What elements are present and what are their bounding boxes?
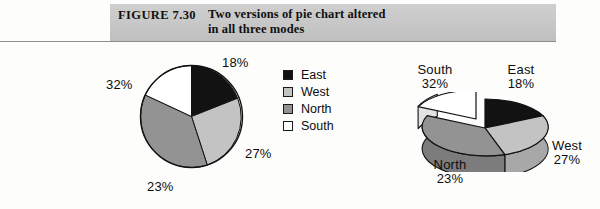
pie3d-label-east-name: East xyxy=(508,62,535,77)
figure-title: Two versions of pie chart altered in all… xyxy=(208,7,385,36)
pie3d-label-west: West 27% xyxy=(543,139,591,167)
legend: East West North South xyxy=(283,67,357,135)
pie2d-label-west: 27% xyxy=(245,146,272,161)
pie3d-label-east-pct: 18% xyxy=(508,76,535,91)
pie3d-label-west-name: West xyxy=(552,138,582,153)
pie2d-label-north: 23% xyxy=(147,179,174,194)
legend-swatch-west-icon xyxy=(283,87,293,97)
legend-label-east: East xyxy=(301,69,326,82)
legend-label-north: North xyxy=(301,103,332,116)
legend-item-east[interactable]: East xyxy=(283,67,357,83)
legend-item-north[interactable]: North xyxy=(283,101,357,117)
pie3d-label-south: South 32% xyxy=(406,63,464,91)
legend-label-south: South xyxy=(301,120,334,133)
legend-label-west: West xyxy=(301,86,329,99)
pie3d-label-east: East 18% xyxy=(497,63,545,91)
caption-text-block: FIGURE 7.30 Two versions of pie chart al… xyxy=(118,7,558,41)
figure-container: FIGURE 7.30 Two versions of pie chart al… xyxy=(0,0,600,209)
legend-item-west[interactable]: West xyxy=(283,84,357,100)
legend-swatch-east-icon xyxy=(283,70,293,80)
pie3d-label-north-pct: 23% xyxy=(437,171,464,186)
pie3d-label-north: North 23% xyxy=(424,158,476,186)
pie-chart-2d-svg xyxy=(139,64,244,169)
caption-divider-rule xyxy=(0,41,556,42)
legend-swatch-north-icon xyxy=(283,104,293,114)
pie2d-label-east: 18% xyxy=(222,55,249,70)
pie3d-label-north-name: North xyxy=(434,157,467,172)
figure-title-line-1: Two versions of pie chart altered xyxy=(208,7,385,21)
pie-chart-2d xyxy=(139,64,244,169)
pie3d-label-west-pct: 27% xyxy=(554,152,581,167)
pie3d-label-south-name: South xyxy=(418,62,453,77)
pie3d-label-south-pct: 32% xyxy=(422,76,449,91)
figure-title-line-2: in all three modes xyxy=(208,22,304,36)
pie2d-label-south: 32% xyxy=(106,77,133,92)
legend-swatch-south-icon xyxy=(283,121,293,131)
figure-number: FIGURE 7.30 xyxy=(118,7,196,23)
legend-item-south[interactable]: South xyxy=(283,118,357,134)
